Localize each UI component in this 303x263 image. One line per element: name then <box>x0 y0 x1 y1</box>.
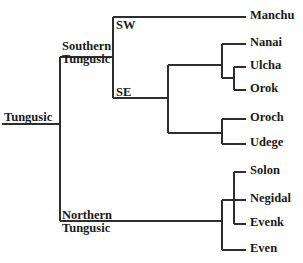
tungusic-cladogram-figure: TungusicSouthernTungusicNorthernTungusic… <box>0 0 303 263</box>
leaf-label-orok: Orok <box>250 82 278 95</box>
leaf-label-evenk: Evenk <box>250 216 284 229</box>
clade-label-northern-line2: Tungusic <box>62 222 112 235</box>
root-label-tungusic: Tungusic <box>4 111 52 124</box>
clade-label-northern: NorthernTungusic <box>62 209 112 235</box>
internal-node-label-sw: SW <box>116 19 135 32</box>
leaf-label-nanai: Nanai <box>250 36 282 49</box>
leaf-label-solon: Solon <box>250 164 280 177</box>
leaf-label-even: Even <box>250 242 277 255</box>
leaf-label-oroch: Oroch <box>250 111 284 124</box>
leaf-label-udege: Udege <box>250 136 283 149</box>
leaf-label-negidal: Negidal <box>250 192 291 205</box>
branch-line-group <box>2 17 246 250</box>
leaf-label-ulcha: Ulcha <box>250 59 281 72</box>
clade-label-southern-line2: Tungusic <box>62 53 111 66</box>
leaf-label-manchu: Manchu <box>250 9 294 22</box>
clade-label-southern: SouthernTungusic <box>62 40 111 66</box>
internal-node-label-se: SE <box>116 86 131 99</box>
